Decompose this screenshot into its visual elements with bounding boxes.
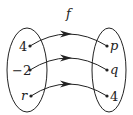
domain-label-2: −2 bbox=[12, 63, 31, 78]
codomain-dot bbox=[105, 44, 108, 47]
domain-dot bbox=[28, 44, 31, 47]
mapping-diagram: f 4 −2 r p q 4 bbox=[0, 0, 133, 115]
mapping-arrow-3 bbox=[31, 84, 107, 96]
codomain-dot bbox=[105, 68, 108, 71]
domain-label-1: 4 bbox=[19, 39, 27, 54]
codomain-label-2: q bbox=[110, 62, 118, 77]
codomain-dot bbox=[105, 94, 108, 97]
codomain-label-3: 4 bbox=[110, 89, 118, 104]
domain-label-3: r bbox=[21, 88, 28, 103]
domain-dot bbox=[29, 94, 32, 97]
codomain-label-1: p bbox=[110, 38, 119, 53]
mapping-arrow-2 bbox=[30, 58, 107, 70]
function-label: f bbox=[65, 6, 73, 21]
